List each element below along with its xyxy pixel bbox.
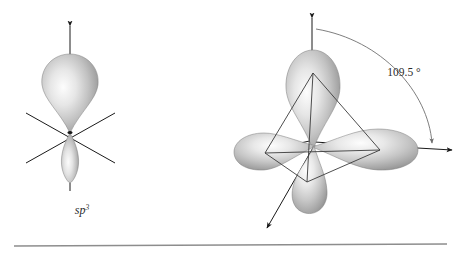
left-nucleus-dot (67, 131, 72, 134)
left-minor-lobe (61, 133, 78, 183)
left-panel-label-superscript: 3 (84, 203, 89, 212)
left-major-lobe (42, 54, 98, 133)
right-lobe-right (312, 129, 418, 170)
right-lobe-top (286, 50, 340, 150)
right-lobe-front-bottom (292, 146, 327, 214)
left-panel-single-sp3-orbital: sp3 (26, 26, 115, 217)
left-panel-label: sp3 (75, 203, 90, 218)
sp3-orbital-figure: sp3 109.5 ° (0, 0, 463, 261)
right-panel-tetrahedral-sp3: 109.5 ° (234, 18, 452, 228)
horizontal-rule (14, 244, 447, 246)
left-panel-label-base: sp (75, 203, 86, 217)
angle-label: 109.5 ° (387, 66, 421, 78)
